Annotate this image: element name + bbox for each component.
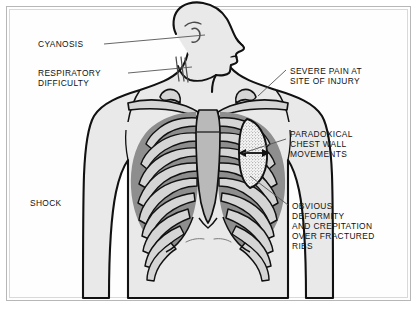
diagram-figure: CYANOSIS RESPIRATORY DIFFICULTY SHOCK SE… <box>0 0 419 309</box>
label-severe-pain-line2: SITE OF INJURY <box>290 76 360 86</box>
label-deformity-line5: RIBS <box>292 241 313 251</box>
label-cyanosis: CYANOSIS <box>38 39 83 49</box>
label-deformity-line3: AND CREPITATION <box>292 221 372 231</box>
label-deformity-line2: DEFORMITY <box>292 211 344 221</box>
label-respiratory-difficulty-line1: RESPIRATORY <box>38 68 101 78</box>
label-paradoxical-line3: MOVEMENTS <box>290 149 347 159</box>
label-paradoxical-line2: CHEST WALL <box>290 139 347 149</box>
mouth-line <box>231 56 237 57</box>
label-paradoxical-line1: PARADOXICAL <box>290 129 353 139</box>
label-deformity-line1: OBVIOUS <box>292 201 333 211</box>
label-deformity-line4: OVER FRACTURED <box>292 231 375 241</box>
label-shock: SHOCK <box>30 198 62 208</box>
label-severe-pain-line1: SEVERE PAIN AT <box>290 66 362 76</box>
label-respiratory-difficulty-line2: DIFFICULTY <box>38 78 89 88</box>
